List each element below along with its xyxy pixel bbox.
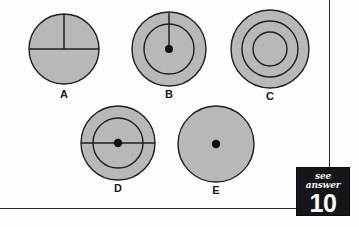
frame-horizontal-rule [0,208,300,209]
figure-c-label: C [229,90,311,102]
see-answer-text: see answer [297,168,349,190]
figure-b-diagram [130,10,208,88]
figure-d-diagram [79,104,157,182]
figure-b: B [130,10,208,102]
figure-a-diagram [27,12,101,86]
figure-e-center-dot [212,140,220,148]
figure-e-diagram [176,104,256,184]
figure-e-label: E [176,184,256,196]
figure-d-center-dot [114,139,122,147]
figure-c-inner-circle [253,32,287,66]
figure-e: E [176,104,256,196]
see-answer-badge[interactable]: see answer 10 [297,168,349,215]
answer-number: 10 [297,190,349,215]
figure-a-label: A [27,88,101,100]
frame-vertical-rule [329,0,330,182]
figure-b-center-dot [165,45,173,53]
figure-d-label: D [79,182,157,194]
puzzle-figure-page: A B C D E [0,0,359,227]
figure-d: D [79,104,157,196]
figure-b-label: B [130,88,208,100]
figure-c: C [229,8,311,102]
figure-c-diagram [229,8,311,90]
figure-a: A [27,12,101,102]
